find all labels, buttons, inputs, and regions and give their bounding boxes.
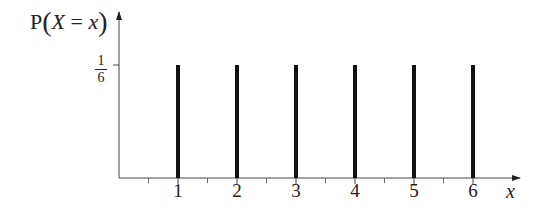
x-tick-label-3: 3: [291, 180, 301, 202]
x-tick-label-2: 2: [232, 180, 242, 202]
x-axis-label: x: [506, 180, 515, 203]
bars: [178, 65, 473, 178]
x-tick-label-5: 5: [409, 180, 419, 202]
x-tick-label-4: 4: [350, 180, 360, 202]
y-axis-label: P(X = x): [30, 4, 108, 36]
y-tick-label: 1 6: [94, 54, 108, 85]
x-tick-label-1: 1: [173, 180, 183, 202]
x-ticks: [149, 178, 474, 184]
x-tick-label-6: 6: [468, 180, 478, 202]
